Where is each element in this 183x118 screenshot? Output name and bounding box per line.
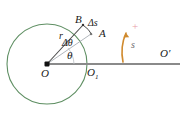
- label-point-b: B: [75, 14, 82, 25]
- label-origin-one: O1: [87, 67, 98, 81]
- label-positive-sign: +: [132, 21, 138, 32]
- physics-figure: B Δs A r Δθ θ O O1 O′ s +: [0, 0, 183, 118]
- label-origin-one-subscript: 1: [95, 73, 99, 81]
- point-a-marker: [90, 33, 92, 35]
- label-delta-theta: Δθ: [62, 38, 73, 48]
- label-origin-prime: O′: [160, 48, 170, 59]
- label-point-a: A: [99, 28, 106, 39]
- label-origin-one-base: O: [87, 66, 95, 78]
- label-delta-s: Δs: [88, 18, 98, 28]
- point-b-marker: [82, 24, 84, 26]
- label-theta: θ: [67, 50, 72, 61]
- arc-arrow-head: [123, 33, 129, 38]
- label-origin: O: [41, 68, 49, 79]
- label-arc-length-s: s: [131, 40, 135, 50]
- origin-point-marker: [45, 62, 50, 67]
